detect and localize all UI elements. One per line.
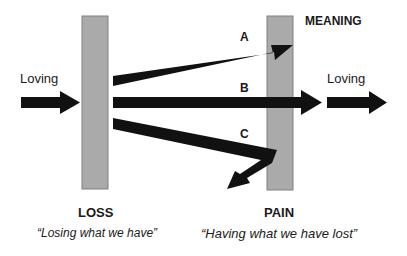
- input-loving-arrow-icon: [21, 91, 80, 114]
- loss-bar: [82, 16, 108, 189]
- path-b-label: B: [240, 81, 249, 95]
- path-a-label: A: [240, 30, 249, 44]
- path-c-arrow-icon: [113, 118, 277, 189]
- diagram-graphics: [0, 0, 407, 256]
- output-loving-arrow-icon: [327, 91, 387, 114]
- input-loving-label: Loving: [20, 71, 58, 86]
- path-c-label: C: [240, 127, 249, 141]
- loss-title: LOSS: [78, 205, 113, 220]
- pain-quote: “Having what we have lost”: [201, 226, 357, 241]
- path-a-arrow-icon: [113, 45, 293, 86]
- loss-pain-meaning-diagram: MEANING Loving Loving A B C LOSS “Losing…: [0, 0, 407, 256]
- output-loving-label: Loving: [327, 71, 365, 86]
- loss-quote: “Losing what we have”: [37, 226, 157, 240]
- pain-title: PAIN: [264, 205, 294, 220]
- meaning-label: MEANING: [305, 14, 362, 28]
